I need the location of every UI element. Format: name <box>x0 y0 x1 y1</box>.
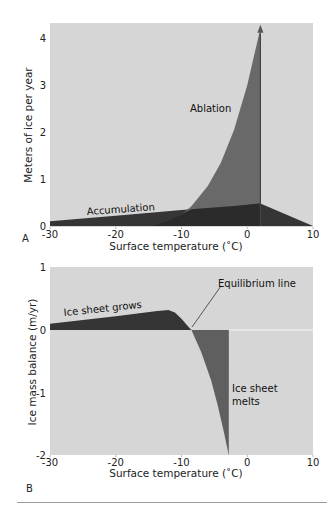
panel-b-y-axis-label: Ice mass balance (m/yr) <box>26 299 38 426</box>
panel-b-chart: Ice sheet grows Equilibrium line Ice she… <box>26 262 319 494</box>
figure: Ablation Accumulation 01234 -30-20-10010… <box>0 0 335 513</box>
y-tick-label: 2 <box>40 127 46 138</box>
panel-a-x-axis-label: Surface temperature (˚C) <box>109 240 242 252</box>
panel-a-y-ticks: 01234 <box>40 33 46 232</box>
x-tick-label: -30 <box>42 457 58 468</box>
y-tick-label: 0 <box>40 325 46 336</box>
y-tick-label: 1 <box>40 174 46 185</box>
ablation-label: Ablation <box>190 103 231 114</box>
ice-sheet-melts-label-1: Ice sheet <box>232 383 278 394</box>
x-tick-label: 0 <box>244 229 250 240</box>
footer-divider <box>17 502 327 503</box>
panel-a-x-ticks: -30-20-10010 <box>42 227 320 240</box>
y-tick-label: 1 <box>40 262 46 273</box>
panel-b-plot-area <box>50 267 313 455</box>
panel-b-label: B <box>26 483 33 494</box>
panel-a-y-axis-label: Meters of ice per year <box>22 67 34 183</box>
equilibrium-line-label: Equilibrium line <box>218 278 296 289</box>
x-tick-label: 10 <box>307 457 320 468</box>
panel-b-x-axis-label: Surface temperature (˚C) <box>109 467 242 479</box>
panel-a-chart: Ablation Accumulation 01234 -30-20-10010… <box>22 23 319 252</box>
panel-a-label: A <box>22 233 29 244</box>
ice-sheet-melts-label-2: melts <box>232 396 260 407</box>
x-tick-label: 0 <box>244 457 250 468</box>
x-tick-label: 10 <box>307 229 320 240</box>
y-tick-label: 4 <box>40 33 46 44</box>
x-tick-label: -30 <box>42 229 58 240</box>
x-tick-label: -10 <box>173 229 189 240</box>
x-tick-label: -20 <box>108 229 124 240</box>
panel-a-plot-area <box>50 23 313 227</box>
y-tick-label: 3 <box>40 80 46 91</box>
